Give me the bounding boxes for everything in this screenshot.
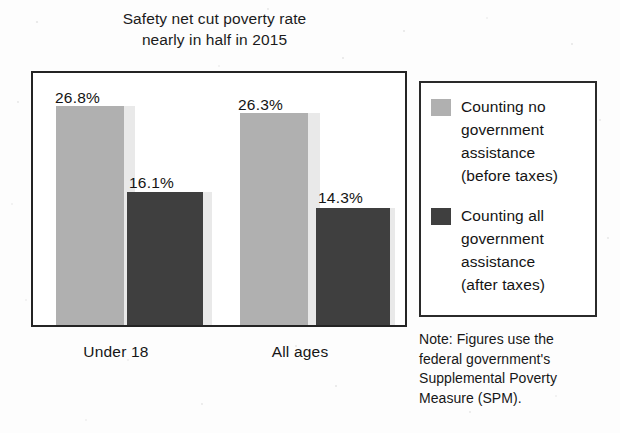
bar-chart-figure: Safety net cut poverty rate nearly in ha… xyxy=(0,0,620,433)
chart-note: Note: Figures use the federal government… xyxy=(419,330,609,408)
chart-note-line-3: Supplemental Poverty xyxy=(419,369,609,389)
bar-allages-all-assistance xyxy=(316,208,390,325)
legend-label-after-taxes-line-2: government xyxy=(461,227,593,250)
legend-label-after-taxes-line-4: (after taxes) xyxy=(461,273,593,296)
category-label-under-18: Under 18 xyxy=(56,343,176,361)
legend: Counting no government assistance (befor… xyxy=(419,81,597,317)
chart-title-line-1: Safety net cut poverty rate xyxy=(22,8,407,29)
legend-label-before-taxes-line-1: Counting no xyxy=(461,95,593,118)
bar-value-under18-all-assistance: 16.1% xyxy=(129,174,174,192)
bar-value-under18-no-assistance: 26.8% xyxy=(55,89,100,107)
legend-label-before-taxes: Counting no government assistance (befor… xyxy=(461,95,593,187)
legend-swatch-icon-before-taxes xyxy=(431,99,451,116)
legend-swatch-icon-after-taxes xyxy=(431,208,451,225)
legend-label-after-taxes: Counting all government assistance (afte… xyxy=(461,204,593,296)
legend-label-after-taxes-line-3: assistance xyxy=(461,250,593,273)
legend-label-after-taxes-line-1: Counting all xyxy=(461,204,593,227)
bar-under18-no-assistance xyxy=(56,106,124,325)
legend-label-before-taxes-line-2: government xyxy=(461,118,593,141)
bar-under18-all-assistance xyxy=(127,192,203,325)
legend-label-before-taxes-line-3: assistance xyxy=(461,141,593,164)
bar-allages-no-assistance xyxy=(240,113,308,325)
chart-title: Safety net cut poverty rate nearly in ha… xyxy=(22,8,407,50)
chart-note-line-4: Measure (SPM). xyxy=(419,389,609,409)
category-label-all-ages: All ages xyxy=(240,343,360,361)
chart-title-line-2: nearly in half in 2015 xyxy=(22,29,407,50)
bar-value-allages-all-assistance: 14.3% xyxy=(318,189,363,207)
plot-inner: 26.8% 16.1% 26.3% 14.3% xyxy=(33,73,405,325)
plot-area: 26.8% 16.1% 26.3% 14.3% xyxy=(31,71,407,327)
legend-label-before-taxes-line-4: (before taxes) xyxy=(461,164,593,187)
bar-value-allages-no-assistance: 26.3% xyxy=(238,96,283,114)
chart-note-line-1: Note: Figures use the xyxy=(419,330,609,350)
chart-note-line-2: federal government's xyxy=(419,350,609,370)
